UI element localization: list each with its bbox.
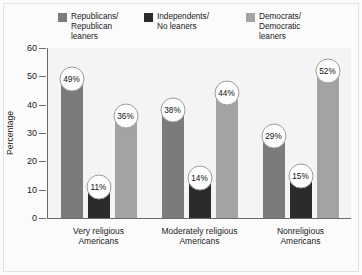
y-axis-tick [39, 161, 46, 162]
legend-label-independents: Independents/ No leaners [157, 11, 209, 31]
bar-value-label: 52% [315, 58, 340, 83]
bar-value-label: 15% [288, 163, 313, 188]
y-axis-tick-label: 30 [27, 128, 37, 138]
legend-label-republicans: Republicans/ Republican leaners [71, 11, 118, 42]
bar: 38% [162, 110, 184, 218]
y-axis-tick-label: 60 [27, 43, 37, 53]
legend-item-independents: Independents/ No leaners [144, 11, 209, 31]
y-axis-tick-label: 0 [32, 213, 37, 223]
y-axis-title: Percentage [5, 111, 15, 155]
y-axis-tick [39, 133, 46, 134]
y-axis-tick [39, 76, 46, 77]
bar: 44% [216, 93, 238, 218]
bar-value-label: 29% [261, 123, 286, 148]
x-axis-group-label: Very religious Americans [73, 226, 124, 247]
chart-legend: Republicans/ Republican leaners Independ… [58, 11, 358, 53]
bar: 11% [88, 187, 110, 218]
y-axis-tick-label: 10 [27, 185, 37, 195]
y-axis-tick-label: 40 [27, 100, 37, 110]
y-axis-tick [39, 48, 46, 49]
plot-area: Percentage 0102030405060 Very religious … [47, 48, 351, 219]
legend-swatch-independents [144, 13, 153, 22]
x-axis-group-label: Moderately religious Americans [161, 226, 237, 247]
x-axis-group-label: Nonreligious Americans [277, 226, 324, 247]
y-axis-tick [39, 105, 46, 106]
bar: 14% [189, 178, 211, 218]
y-axis-tick-label: 20 [27, 156, 37, 166]
bar: 15% [290, 176, 312, 219]
legend-item-democrats: Democrats/ Democratic leaners [246, 11, 301, 42]
bar: 36% [115, 116, 137, 218]
bar-value-label: 38% [160, 98, 185, 123]
bar-value-label: 49% [59, 67, 84, 92]
y-axis-tick-label: 50 [27, 71, 37, 81]
bar-value-label: 11% [86, 174, 111, 199]
y-axis-tick [39, 190, 46, 191]
bar-value-label: 36% [113, 104, 138, 129]
bar: 52% [317, 71, 339, 218]
y-axis-tick [39, 218, 46, 219]
legend-swatch-democrats [246, 13, 255, 22]
bar-value-label: 14% [187, 166, 212, 191]
legend-label-democrats: Democrats/ Democratic leaners [259, 11, 301, 42]
bar: 29% [263, 136, 285, 218]
legend-item-republicans: Republicans/ Republican leaners [58, 11, 118, 42]
bar-value-label: 44% [214, 81, 239, 106]
bar: 49% [61, 79, 83, 218]
legend-swatch-republicans [58, 13, 67, 22]
bar-chart-figure: Republicans/ Republican leaners Independ… [0, 0, 362, 275]
